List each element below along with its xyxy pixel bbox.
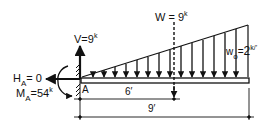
load-intensity-label: wo=2k/’ [226,45,257,57]
v-value: 9 [88,33,94,45]
m-unit: k [49,86,53,93]
dimension-9ft-label: 9′ [148,104,155,114]
resultant-load-label: W = 9k [155,12,188,23]
w-unit: k [184,10,188,17]
moment-reaction-label: MA=54k [16,88,53,99]
w0-sub: o [233,52,237,61]
beam-diagram [0,0,277,133]
moment-reaction-arc [58,66,72,96]
m-sub: A [25,94,30,103]
h-eq: = 0 [26,72,42,84]
vertical-reaction-label: V=9k [74,34,97,45]
h-symbol: H [13,72,21,84]
support-label: A [82,85,89,95]
triangular-load [82,25,248,77]
w0-unit: k/’ [250,44,257,51]
beam [81,78,249,83]
dimension-lines [74,88,254,120]
w-eq: = [165,11,178,23]
horizontal-reaction-label: HA= 0 [13,73,42,84]
w-symbol: W [155,11,165,23]
m-symbol: M [16,87,25,99]
v-unit: k [94,32,98,39]
m-value: 54 [37,87,49,99]
dimension-6ft-label: 6′ [125,87,132,97]
